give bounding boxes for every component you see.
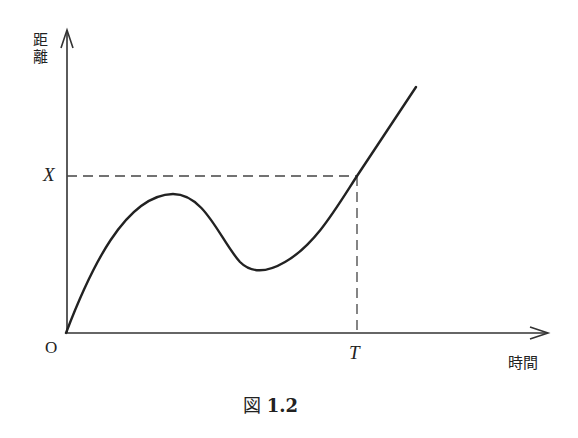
caption-prefix: 図 [243,395,261,416]
y-axis-label-char-1: 距 [33,32,48,49]
t-time-label: T [349,342,360,364]
origin-label: O [45,338,57,358]
y-axis-label-char-2: 離 [33,49,48,66]
distance-curve [66,87,416,333]
y-axis-label: 距 離 [33,32,48,66]
distance-time-diagram [0,0,578,438]
figure-caption: 図 1.2 [243,391,298,417]
x-level-label: X [43,164,55,186]
x-axis-label: 時間 [508,355,538,372]
caption-number: 1.2 [267,395,298,416]
